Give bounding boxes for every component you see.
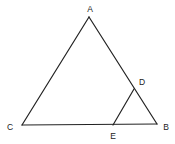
label-d: D (139, 77, 145, 87)
vertex-labels: A B C D E (7, 4, 169, 141)
segment-cb (22, 124, 157, 125)
label-b: B (163, 122, 169, 132)
label-c: C (7, 122, 13, 132)
triangle-diagram: A B C D E (0, 0, 175, 144)
segments (22, 17, 157, 125)
label-e: E (110, 131, 116, 141)
label-a: A (87, 4, 93, 14)
segment-de (113, 89, 134, 125)
segment-ac (22, 17, 89, 125)
